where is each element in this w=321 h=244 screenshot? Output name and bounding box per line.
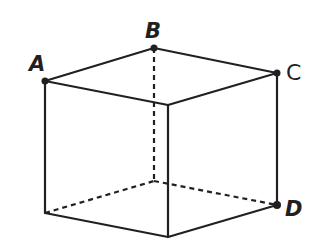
hidden-edge-back-bottom-to-D xyxy=(154,181,277,205)
vertex-D-dot xyxy=(273,201,281,209)
cube-diagram: A B C D xyxy=(0,0,321,244)
edge-A-front-top-right xyxy=(45,81,168,105)
label-B: B xyxy=(145,19,161,43)
label-C: C xyxy=(286,60,301,85)
vertex-A-dot xyxy=(42,78,49,85)
edge-C-front-top-right xyxy=(168,73,277,105)
edge-front-bottom-right-to-D xyxy=(168,205,277,237)
edge-front-bottom xyxy=(45,213,168,237)
label-D: D xyxy=(285,197,302,221)
vertex-B-dot xyxy=(151,45,158,52)
edge-B-C xyxy=(154,48,277,73)
vertex-C-dot xyxy=(274,70,281,77)
edge-A-B xyxy=(45,48,154,81)
hidden-edge-front-bottom-left-to-back-bottom xyxy=(45,181,154,213)
label-A: A xyxy=(27,52,45,76)
